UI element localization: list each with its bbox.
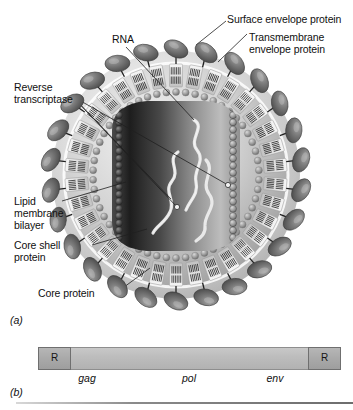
- genome-bar: [38, 347, 341, 370]
- retrovirus-figure: Surface envelope protein Transmembrane e…: [0, 0, 353, 410]
- label-reverse-transcriptase-line1: Reverse: [14, 81, 52, 93]
- ltr-repeat-right: R: [308, 347, 341, 370]
- label-transmembrane-envelope-protein-line2: envelope protein: [249, 43, 325, 55]
- gene-label-env: env: [250, 372, 300, 384]
- label-reverse-transcriptase-line2: transcriptase: [14, 93, 73, 105]
- label-transmembrane-envelope-protein-line1: Transmembrane: [249, 31, 324, 43]
- label-core-shell-protein-line1: Core shell: [14, 239, 60, 251]
- label-core-protein: Core protein: [38, 287, 95, 299]
- footer-rule: [16, 402, 353, 404]
- leader-surface-envelope-protein: [196, 21, 226, 45]
- ltr-repeat-left: R: [38, 347, 71, 370]
- gene-label-pol: pol: [164, 372, 214, 384]
- label-lipid-membrane-bilayer-line1: Lipid: [14, 195, 36, 207]
- label-lipid-membrane-bilayer-line2: membrane: [14, 207, 63, 219]
- ltr-repeat-right-label: R: [309, 352, 340, 363]
- label-core-shell-protein-line2: protein: [14, 251, 45, 263]
- gene-label-gag: gag: [62, 372, 112, 384]
- panel-a-id: (a): [10, 314, 23, 326]
- ltr-repeat-left-label: R: [39, 352, 70, 363]
- label-rna: RNA: [112, 33, 134, 45]
- label-lipid-membrane-bilayer-line3: bilayer: [14, 219, 44, 231]
- label-surface-envelope-protein: Surface envelope protein: [227, 13, 341, 25]
- panel-b-id: (b): [10, 386, 23, 398]
